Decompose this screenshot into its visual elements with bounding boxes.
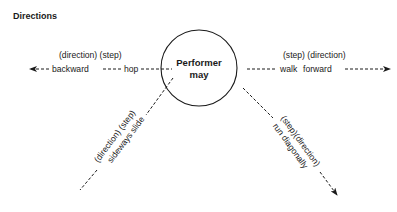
- left-step: hop: [124, 64, 139, 74]
- left-direction: backward: [52, 64, 89, 74]
- arrow-left-icon: [29, 66, 37, 72]
- right-header: (step) (direction): [283, 50, 346, 60]
- right-direction: forward: [303, 64, 332, 74]
- directions-diagram: Directions Performer may (direction) (st…: [0, 0, 397, 212]
- performer-label: Performer: [176, 57, 222, 68]
- right-step: walk: [279, 64, 298, 74]
- left-header: (direction) (step): [59, 50, 122, 60]
- branch-lower-right: (step)(direction) run diagonally: [243, 88, 337, 195]
- branch-left: (direction) (step) backward hop: [29, 50, 172, 74]
- diagram-canvas: Directions Performer may (direction) (st…: [0, 0, 397, 212]
- performer-circle: [161, 30, 237, 106]
- diagram-title: Directions: [13, 11, 57, 21]
- branch-lower-left: (direction) (step) sideways slide: [80, 78, 173, 190]
- branch-right: (step) (direction) walk forward: [247, 50, 390, 74]
- may-label: may: [189, 69, 209, 80]
